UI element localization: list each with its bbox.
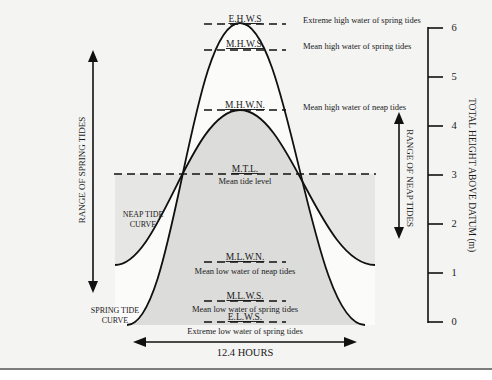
mtl-desc: Mean tide level (219, 176, 273, 186)
elws-desc: Extreme low water of spring tides (187, 326, 302, 336)
duration-label: 12.4 HOURS (217, 347, 274, 358)
spring-curve-label-2: CURVE (102, 316, 129, 325)
mhws-abbr: M.H.W.S. (226, 39, 264, 49)
tick-5: 5 (451, 71, 456, 82)
tick-0: 0 (451, 316, 456, 327)
ehws-abbr: E.H.W.S (228, 14, 261, 24)
tide-diagram-canvas: E.H.W.S M.H.W.S. M.H.W.N. M.T.L. Mean ti… (0, 0, 492, 380)
mhwn-desc: Mean high water of neap tides (303, 102, 406, 112)
arrow-up-icon (394, 112, 404, 124)
mlwn-abbr: M.L.W.N. (226, 252, 265, 262)
mhwn-abbr: M.H.W.N. (225, 100, 265, 110)
mlws-abbr: M.L.W.S. (226, 291, 263, 301)
arrow-down-icon (88, 281, 98, 293)
bottom-margin (0, 370, 492, 380)
height-axis-label: TOTAL HEIGHT ABOVE DATUM (m) (466, 98, 477, 252)
tick-3: 3 (451, 169, 456, 180)
elws-abbr: E.L.W.S. (228, 312, 262, 322)
arrow-down-icon (394, 227, 404, 239)
spring-curve-label-1: SPRING TIDE (91, 306, 140, 315)
neap-curve-label-1: NEAP TIDE (123, 210, 164, 219)
arrow-left-icon (133, 337, 146, 347)
spring-range-label: RANGE OF SPRING TIDES (77, 117, 87, 224)
mtl-abbr: M.T.L. (232, 164, 258, 174)
mlwn-desc: Mean low water of neap tides (195, 266, 296, 276)
neap-range-arrow (394, 112, 404, 239)
neap-curve-label-2: CURVE (130, 220, 157, 229)
tick-4: 4 (451, 120, 457, 131)
ehws-desc: Extreme high water of spring tides (303, 15, 421, 25)
spring-range-arrow (88, 50, 98, 293)
mhws-desc: Mean high water of spring tides (303, 41, 411, 51)
tide-diagram: E.H.W.S M.H.W.S. M.H.W.N. M.T.L. Mean ti… (0, 0, 492, 380)
tick-6: 6 (451, 22, 456, 33)
neap-range-label: RANGE OF NEAP TIDES (405, 129, 415, 227)
duration-arrow (133, 337, 357, 347)
height-axis (428, 27, 443, 323)
arrow-up-icon (88, 50, 98, 62)
tick-1: 1 (451, 267, 456, 278)
tick-2: 2 (451, 218, 456, 229)
arrow-right-icon (344, 337, 357, 347)
